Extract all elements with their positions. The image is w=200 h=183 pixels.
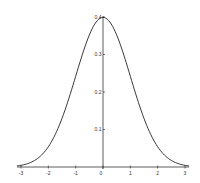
y-tick-label: 0.2 xyxy=(95,89,102,95)
x-tick-label: -2 xyxy=(46,170,51,176)
y-tick-label: 0.4 xyxy=(95,14,102,20)
x-tick-label: 2 xyxy=(156,170,159,176)
x-tick-label: 0 xyxy=(100,170,103,176)
normal-distribution-chart: -3-2-101230.10.20.30.4 xyxy=(0,0,200,183)
x-tick-label: -3 xyxy=(19,170,24,176)
y-tick-label: 0.3 xyxy=(95,51,102,57)
x-tick-label: 1 xyxy=(129,170,132,176)
x-tick-label: 3 xyxy=(184,170,187,176)
y-tick-label: 0.1 xyxy=(95,126,102,132)
x-tick-label: -1 xyxy=(73,170,78,176)
axes xyxy=(17,16,189,169)
